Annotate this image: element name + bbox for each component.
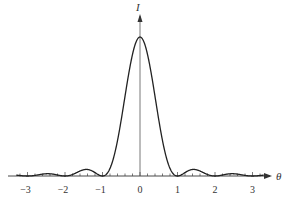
x-tick-labels: −3−2−10123 — [20, 184, 255, 195]
x-axis-label: θ — [276, 170, 282, 182]
y-axis-arrow-icon — [138, 14, 143, 22]
diffraction-chart: −3−2−10123 I θ — [0, 0, 287, 204]
x-axis-arrow-icon — [264, 173, 272, 179]
x-tick-label: −2 — [58, 184, 69, 195]
x-tick-label: 0 — [138, 184, 143, 195]
x-tick-label: −1 — [95, 184, 106, 195]
minor-ticks — [20, 172, 260, 176]
x-tick-label: 3 — [250, 184, 255, 195]
x-tick-label: 2 — [213, 184, 218, 195]
y-axis-label: I — [135, 1, 141, 13]
x-tick-label: −3 — [20, 184, 31, 195]
x-tick-label: 1 — [175, 184, 180, 195]
